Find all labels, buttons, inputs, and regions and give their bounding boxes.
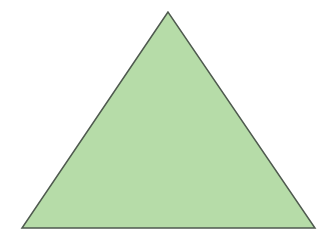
diagram-canvas [0,0,329,235]
